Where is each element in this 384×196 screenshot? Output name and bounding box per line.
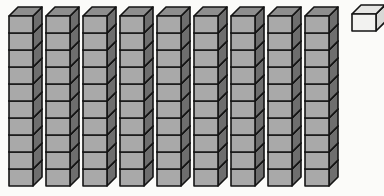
rod-3-cube-1-front-face	[83, 16, 107, 33]
rod-9-cube-6-front-face	[305, 101, 329, 118]
rod-9-cube-3-front-face	[305, 50, 329, 67]
rod-1-cube-1	[9, 7, 42, 33]
rod-6-cube-8-front-face	[194, 135, 218, 152]
rod-6-cube-3-front-face	[194, 50, 218, 67]
rod-4-cube-5-front-face	[120, 84, 144, 101]
rod-4-cube-1	[120, 7, 153, 33]
ones-units-group	[352, 5, 384, 31]
rod-5-cube-4-front-face	[157, 67, 181, 84]
rod-3-cube-6-front-face	[83, 101, 107, 118]
rod-5-cube-6-front-face	[157, 101, 181, 118]
rod-1-cube-5-front-face	[9, 84, 33, 101]
rod-6-cube-4-front-face	[194, 67, 218, 84]
rod-1-cube-8-front-face	[9, 135, 33, 152]
rod-2-cube-1	[46, 7, 79, 33]
rod-5	[157, 7, 190, 186]
rod-4-cube-1-front-face	[120, 16, 144, 33]
rod-2-cube-2-front-face	[46, 33, 70, 50]
rod-7-cube-10-front-face	[231, 169, 255, 186]
rod-2	[46, 7, 79, 186]
rod-6-cube-1	[194, 7, 227, 33]
rod-2-cube-1-front-face	[46, 16, 70, 33]
rod-8-cube-9-front-face	[268, 152, 292, 169]
rod-2-cube-6-front-face	[46, 101, 70, 118]
rod-5-cube-1-front-face	[157, 16, 181, 33]
rod-9-cube-5-front-face	[305, 84, 329, 101]
rod-4-cube-7-front-face	[120, 118, 144, 135]
rod-9-cube-2-front-face	[305, 33, 329, 50]
rod-3-cube-2-front-face	[83, 33, 107, 50]
rod-5-cube-7-front-face	[157, 118, 181, 135]
rod-8-cube-3-front-face	[268, 50, 292, 67]
tens-rods-group	[9, 7, 338, 186]
rod-7-cube-5-front-face	[231, 84, 255, 101]
rod-1-cube-3-front-face	[9, 50, 33, 67]
rod-7-cube-9-front-face	[231, 152, 255, 169]
rod-2-cube-9-front-face	[46, 152, 70, 169]
rod-9	[305, 7, 338, 186]
rod-7-cube-3-front-face	[231, 50, 255, 67]
rod-5-cube-2-front-face	[157, 33, 181, 50]
rod-9-cube-4-front-face	[305, 67, 329, 84]
rod-5-cube-1	[157, 7, 190, 33]
base-ten-blocks-figure	[0, 0, 384, 196]
rod-4-cube-2-front-face	[120, 33, 144, 50]
rod-8-cube-2-front-face	[268, 33, 292, 50]
rod-2-cube-10-front-face	[46, 169, 70, 186]
rod-4-cube-8-front-face	[120, 135, 144, 152]
rod-4-cube-3-front-face	[120, 50, 144, 67]
rod-3-cube-5-front-face	[83, 84, 107, 101]
rod-6-cube-6-front-face	[194, 101, 218, 118]
rod-2-cube-4-front-face	[46, 67, 70, 84]
rod-2-cube-7-front-face	[46, 118, 70, 135]
rod-8-cube-1	[268, 7, 301, 33]
unit-cube-1-cube-front-face	[352, 14, 376, 31]
rod-9-cube-1	[305, 7, 338, 33]
rod-3-cube-3-front-face	[83, 50, 107, 67]
rod-3-cube-7-front-face	[83, 118, 107, 135]
rod-5-cube-8-front-face	[157, 135, 181, 152]
rod-4-cube-9-front-face	[120, 152, 144, 169]
blocks-canvas	[0, 0, 384, 196]
rod-7-cube-2-front-face	[231, 33, 255, 50]
rod-2-cube-3-front-face	[46, 50, 70, 67]
rod-3-cube-1	[83, 7, 116, 33]
rod-3	[83, 7, 116, 186]
rod-1-cube-7-front-face	[9, 118, 33, 135]
rod-1-cube-10-front-face	[9, 169, 33, 186]
rod-9-cube-7-front-face	[305, 118, 329, 135]
rod-8-cube-7-front-face	[268, 118, 292, 135]
rod-9-cube-1-front-face	[305, 16, 329, 33]
rod-1-cube-1-front-face	[9, 16, 33, 33]
rod-7-cube-7-front-face	[231, 118, 255, 135]
rod-4-cube-6-front-face	[120, 101, 144, 118]
rod-5-cube-9-front-face	[157, 152, 181, 169]
rod-6-cube-9-front-face	[194, 152, 218, 169]
rod-1-cube-6-front-face	[9, 101, 33, 118]
rod-8-cube-5-front-face	[268, 84, 292, 101]
rod-1-cube-2-front-face	[9, 33, 33, 50]
rod-4-cube-10-front-face	[120, 169, 144, 186]
rod-4	[120, 7, 153, 186]
rod-8-cube-4-front-face	[268, 67, 292, 84]
rod-8-cube-10-front-face	[268, 169, 292, 186]
rod-2-cube-5-front-face	[46, 84, 70, 101]
rod-2-cube-8-front-face	[46, 135, 70, 152]
rod-1-cube-9-front-face	[9, 152, 33, 169]
rod-1-cube-4-front-face	[9, 67, 33, 84]
rod-5-cube-5-front-face	[157, 84, 181, 101]
rod-6-cube-2-front-face	[194, 33, 218, 50]
rod-6-cube-7-front-face	[194, 118, 218, 135]
rod-6-cube-1-front-face	[194, 16, 218, 33]
rod-6-cube-10-front-face	[194, 169, 218, 186]
rod-3-cube-9-front-face	[83, 152, 107, 169]
rod-8-cube-8-front-face	[268, 135, 292, 152]
rod-9-cube-10-front-face	[305, 169, 329, 186]
rod-8	[268, 7, 301, 186]
rod-5-cube-3-front-face	[157, 50, 181, 67]
unit-cube-1	[352, 5, 384, 31]
rod-9-cube-9-front-face	[305, 152, 329, 169]
rod-8-cube-1-front-face	[268, 16, 292, 33]
rod-7-cube-1	[231, 7, 264, 33]
rod-4-cube-4-front-face	[120, 67, 144, 84]
